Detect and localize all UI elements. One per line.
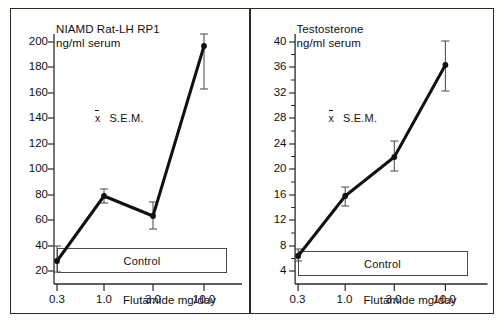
plot-svg-right — [251, 8, 495, 314]
series-line-left — [57, 46, 204, 261]
plot-svg-left — [10, 8, 249, 314]
error-bars-right — [294, 41, 449, 261]
figure-root: NIAMD Rat-LH RP1 ng/ml serum xS.E.M. 200… — [0, 0, 504, 330]
panel-left-lh: NIAMD Rat-LH RP1 ng/ml serum xS.E.M. 200… — [10, 8, 249, 314]
series-line-right — [298, 65, 445, 256]
x-ticks-left — [57, 284, 204, 291]
y-ticks-left — [48, 42, 54, 271]
x-ticks-right — [298, 284, 445, 291]
panel-right-testosterone: Testosterone ng/ml serum xS.E.M. 40 36 3… — [251, 8, 495, 314]
